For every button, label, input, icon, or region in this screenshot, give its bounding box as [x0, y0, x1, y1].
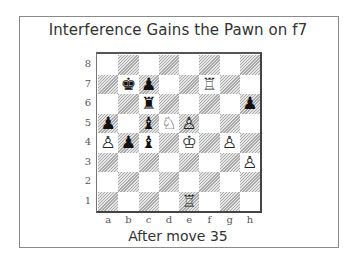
square-h1	[240, 192, 260, 212]
square-c1	[139, 192, 159, 212]
square-d5: ♘	[159, 114, 179, 134]
square-c7: ♟	[139, 75, 159, 95]
square-g7	[220, 75, 240, 95]
square-h2	[240, 172, 260, 192]
square-f6	[199, 94, 219, 114]
square-d8	[159, 55, 179, 75]
white-pawn-icon: ♙	[101, 134, 116, 151]
square-e4: ♔	[179, 133, 199, 153]
square-d2	[159, 172, 179, 192]
square-a7	[98, 75, 118, 95]
rank-label: 5	[82, 113, 94, 133]
square-d6	[159, 94, 179, 114]
black-rook-icon: ♜	[141, 95, 156, 112]
square-e5: ♙	[179, 114, 199, 134]
rank-label: 1	[82, 191, 94, 211]
black-pawn-icon: ♟	[101, 115, 116, 132]
square-e2	[179, 172, 199, 192]
square-h3: ♙	[240, 153, 260, 173]
file-labels: a b c d e f g h	[98, 214, 260, 226]
white-pawn-icon: ♙	[182, 115, 197, 132]
square-h4	[240, 133, 260, 153]
square-f3	[199, 153, 219, 173]
white-knight-icon: ♘	[161, 115, 176, 132]
square-b2	[118, 172, 138, 192]
square-f7: ♖	[199, 75, 219, 95]
black-king-icon: ♚	[121, 76, 136, 93]
black-pawn-icon: ♟	[141, 76, 156, 93]
square-b4: ♟	[118, 133, 138, 153]
square-a2	[98, 172, 118, 192]
chess-board: ♚♟♖♜♟♟♝♘♙♙♟♝♔♙♙♖	[98, 55, 260, 211]
rank-label: 3	[82, 152, 94, 172]
square-e7	[179, 75, 199, 95]
square-a6	[98, 94, 118, 114]
square-g4: ♙	[220, 133, 240, 153]
square-d4	[159, 133, 179, 153]
square-e3	[179, 153, 199, 173]
square-a4: ♙	[98, 133, 118, 153]
square-f5	[199, 114, 219, 134]
square-h7	[240, 75, 260, 95]
white-pawn-icon: ♙	[242, 154, 257, 171]
square-f2	[199, 172, 219, 192]
square-h8	[240, 55, 260, 75]
square-f4	[199, 133, 219, 153]
file-label: g	[220, 214, 240, 226]
square-c3	[139, 153, 159, 173]
chess-board-border: ♚♟♖♜♟♟♝♘♙♙♟♝♔♙♙♖	[96, 52, 262, 213]
square-b1	[118, 192, 138, 212]
square-b5	[118, 114, 138, 134]
black-pawn-icon: ♟	[121, 134, 136, 151]
square-b7: ♚	[118, 75, 138, 95]
white-pawn-icon: ♙	[222, 134, 237, 151]
black-bishop-icon: ♝	[141, 115, 156, 132]
black-pawn-icon: ♟	[242, 95, 257, 112]
white-rook-icon: ♖	[202, 76, 217, 93]
square-h6: ♟	[240, 94, 260, 114]
file-label: e	[179, 214, 199, 226]
square-c8	[139, 55, 159, 75]
square-f1	[199, 192, 219, 212]
square-c4: ♝	[139, 133, 159, 153]
square-a1	[98, 192, 118, 212]
file-label: h	[240, 214, 260, 226]
square-c6: ♜	[139, 94, 159, 114]
file-label: a	[98, 214, 118, 226]
square-g8	[220, 55, 240, 75]
white-king-icon: ♔	[182, 134, 197, 151]
square-e8	[179, 55, 199, 75]
diagram-title: Interference Gains the Pawn on f7	[0, 21, 356, 39]
black-bishop-icon: ♝	[141, 134, 156, 151]
square-b6	[118, 94, 138, 114]
square-g6	[220, 94, 240, 114]
square-a3	[98, 153, 118, 173]
file-label: c	[139, 214, 159, 226]
square-a5: ♟	[98, 114, 118, 134]
rank-label: 6	[82, 93, 94, 113]
square-e1: ♖	[179, 192, 199, 212]
rank-label: 4	[82, 132, 94, 152]
square-d3	[159, 153, 179, 173]
square-g3	[220, 153, 240, 173]
file-label: f	[199, 214, 219, 226]
white-rook-icon: ♖	[182, 193, 197, 210]
file-label: b	[118, 214, 138, 226]
square-b8	[118, 55, 138, 75]
square-h5	[240, 114, 260, 134]
diagram-caption: After move 35	[0, 228, 356, 244]
square-a8	[98, 55, 118, 75]
square-c2	[139, 172, 159, 192]
square-f8	[199, 55, 219, 75]
square-d7	[159, 75, 179, 95]
square-g5	[220, 114, 240, 134]
square-g1	[220, 192, 240, 212]
square-g2	[220, 172, 240, 192]
rank-label: 7	[82, 74, 94, 94]
rank-labels: 8 7 6 5 4 3 2 1	[82, 54, 94, 210]
square-c5: ♝	[139, 114, 159, 134]
rank-label: 2	[82, 171, 94, 191]
square-d1	[159, 192, 179, 212]
square-b3	[118, 153, 138, 173]
square-e6	[179, 94, 199, 114]
